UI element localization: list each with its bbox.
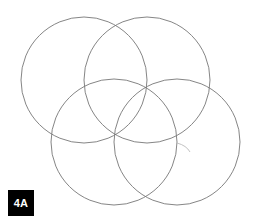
faint-tail-arc-icon [177,143,190,152]
venn-circles-svg [0,0,257,223]
figure-label-badge: 4A [8,190,34,216]
figure-canvas: 4A [0,0,257,223]
figure-label-text: 4A [14,198,28,209]
